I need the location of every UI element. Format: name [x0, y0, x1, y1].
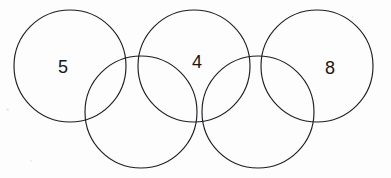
scan-speck	[6, 108, 9, 111]
circle-label-right: 8	[325, 59, 335, 77]
circle-label-middle: 4	[192, 53, 202, 71]
scan-speck	[30, 160, 32, 162]
circle-label-left: 5	[58, 58, 68, 76]
circle-top-right	[261, 10, 373, 122]
figure-canvas: 5 4 8	[0, 0, 391, 178]
circle-bottom-right	[202, 56, 314, 168]
scan-speck	[352, 16, 354, 18]
rings-diagram	[0, 0, 391, 178]
